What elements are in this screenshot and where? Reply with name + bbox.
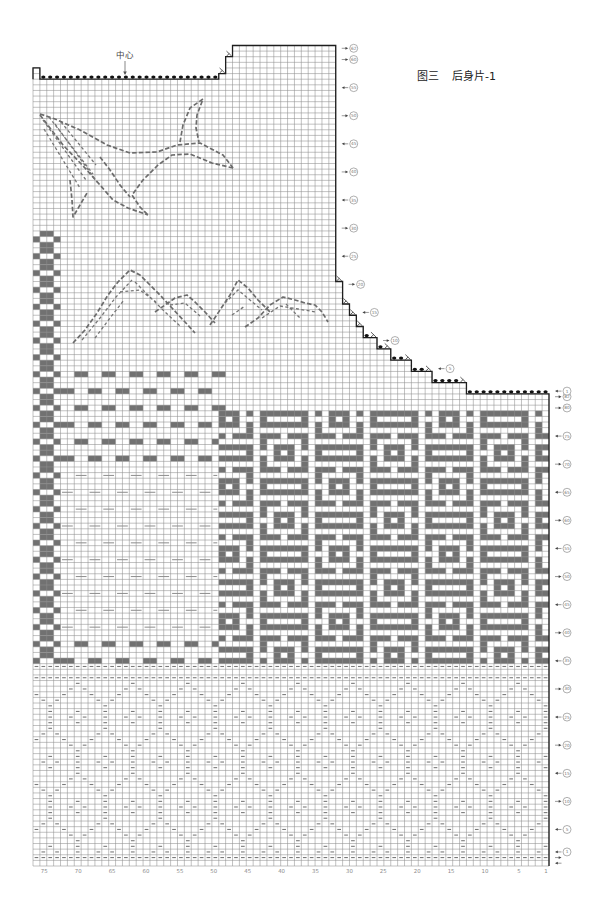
- dark-stitch: [343, 619, 350, 625]
- grid-lines: [33, 45, 549, 866]
- dark-stitch: [370, 433, 391, 439]
- dark-stitch: [260, 456, 267, 462]
- purl-mark-layer: [35, 475, 548, 857]
- bind-off-dot: [413, 368, 417, 371]
- dark-stitch: [246, 473, 253, 479]
- dark-stitch: [260, 574, 267, 580]
- bind-off-dot: [55, 76, 59, 79]
- bind-off-dot: [392, 357, 396, 360]
- dark-stitch: [288, 602, 309, 608]
- dark-stitch: [260, 579, 267, 585]
- dark-stitch: [494, 456, 515, 462]
- dark-stitch: [370, 461, 377, 467]
- bind-off-dot: [440, 379, 444, 382]
- dark-stitch: [425, 585, 432, 591]
- dark-stitch: [301, 641, 308, 647]
- dark-stitch: [301, 445, 308, 451]
- dark-stitch: [425, 501, 446, 507]
- dark-stitch: [54, 641, 61, 647]
- dark-stitch: [329, 484, 336, 490]
- dark-stitch: [480, 579, 487, 585]
- row-label-number: 40: [564, 630, 570, 635]
- dark-stitch: [246, 540, 253, 546]
- dark-stitch: [274, 445, 295, 451]
- dark-stitch: [343, 568, 364, 574]
- dark-stitch: [466, 652, 473, 658]
- dark-stitch: [274, 523, 295, 529]
- dark-stitch: [260, 484, 267, 490]
- dark-stitch: [508, 534, 529, 540]
- dark-stitch: [54, 523, 61, 529]
- dark-stitch: [54, 574, 61, 580]
- dark-stitch: [54, 321, 61, 327]
- dark-stitch: [535, 489, 542, 495]
- bind-off-dot: [69, 76, 73, 79]
- dark-stitch: [384, 658, 405, 664]
- bind-off-dot: [199, 76, 203, 79]
- dark-stitch: [466, 473, 473, 479]
- dark-stitch: [480, 416, 487, 422]
- bind-off-dot: [206, 76, 210, 79]
- decrease-mark-icon: [220, 68, 225, 73]
- row-label-number: 40: [351, 169, 357, 174]
- bind-off-dot: [523, 390, 527, 393]
- dark-stitch: [233, 484, 240, 490]
- dark-stitch: [480, 461, 487, 467]
- dark-stitch: [466, 478, 473, 484]
- dark-stitch: [453, 568, 474, 574]
- dark-stitch: [315, 489, 322, 495]
- dark-stitch: [301, 574, 308, 580]
- dark-stitch: [494, 652, 501, 658]
- dark-stitch: [494, 450, 501, 456]
- dark-stitch: [33, 658, 40, 664]
- dark-stitch: [356, 450, 363, 456]
- dark-stitch: [398, 518, 405, 524]
- whale-tail-lower-line: [132, 154, 233, 215]
- arrow-left-icon: [342, 142, 349, 145]
- dark-stitch: [508, 467, 529, 473]
- dark-stitch: [260, 658, 267, 664]
- dark-stitch: [494, 445, 515, 451]
- dark-stitch: [54, 422, 75, 428]
- dark-stitch: [425, 636, 446, 642]
- arrow-left-icon: [555, 390, 562, 393]
- dark-stitch: [425, 456, 473, 462]
- dark-stitch: [398, 568, 419, 574]
- dark-stitch: [260, 602, 281, 608]
- dark-stitch: [439, 411, 460, 417]
- row-label-number: 30: [351, 226, 357, 231]
- dark-stitch: [356, 473, 363, 479]
- dark-stitch: [480, 636, 501, 642]
- dark-stitch: [480, 613, 528, 619]
- dark-stitch: [301, 456, 308, 462]
- dark-stitch: [329, 624, 350, 630]
- row-label: 62: [350, 44, 358, 52]
- bind-off-dot: [186, 76, 190, 79]
- row-label: 70: [563, 460, 571, 468]
- dark-stitch: [480, 489, 528, 495]
- column-label: 5: [517, 868, 520, 874]
- dark-stitch: [411, 596, 418, 602]
- dark-stitch: [219, 534, 226, 540]
- dark-stitch: [219, 647, 253, 653]
- dark-stitch: [54, 473, 61, 479]
- dark-stitch: [274, 591, 295, 597]
- dark-stitch: [508, 585, 515, 591]
- bind-off-dot: [193, 76, 197, 79]
- row-label-number: 30: [564, 686, 570, 691]
- dark-stitch: [301, 591, 308, 597]
- dark-stitch: [329, 613, 350, 619]
- dark-stitch: [425, 591, 473, 597]
- dark-stitch: [356, 540, 363, 546]
- dark-stitch: [370, 658, 377, 664]
- row-label-number: 75: [564, 434, 570, 439]
- dark-stitch: [439, 613, 460, 619]
- dark-stitch: [274, 652, 281, 658]
- dark-stitch: [260, 512, 267, 518]
- dark-stitch: [466, 540, 473, 546]
- row-label-number: 5: [566, 827, 569, 832]
- column-label: 50: [210, 868, 217, 874]
- dark-stitch: [466, 422, 473, 428]
- dark-stitch: [411, 445, 418, 451]
- row-label: 80: [563, 404, 571, 412]
